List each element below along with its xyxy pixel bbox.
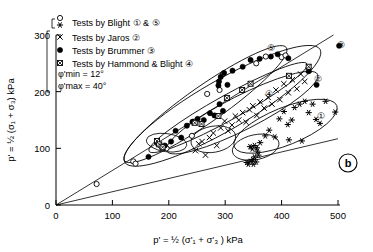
marker-circle-open <box>263 54 268 59</box>
marker-asterisk <box>266 128 272 133</box>
marker-asterisk <box>285 122 291 127</box>
marker-cross-x <box>211 130 216 135</box>
marker-cross-x <box>236 117 241 122</box>
marker-cross-x <box>229 122 234 127</box>
chart-panel: 0100200300400500 0100200300 p' = ½ (σ'₁ … <box>0 0 373 252</box>
marker-cross-x <box>294 86 299 91</box>
marker-asterisk <box>276 116 282 121</box>
marker-circle-filled <box>179 135 184 140</box>
legend-item-label: Tests by Brummer ③ <box>72 46 155 56</box>
group-label: ③ <box>337 40 345 50</box>
group-label: ④ <box>265 89 273 99</box>
x-tick-label: 0 <box>53 210 58 221</box>
group-label: ① <box>317 111 325 121</box>
marker-circle-open <box>254 61 259 66</box>
marker-asterisk <box>286 137 292 142</box>
marker-cross-x <box>273 87 278 92</box>
scatter-chart: 0100200300400500 0100200300 p' = ½ (σ'₁ … <box>0 0 373 252</box>
marker-asterisk <box>291 105 297 110</box>
marker-circle-open <box>205 91 210 96</box>
x-tick-label: 500 <box>330 210 346 221</box>
marker-circle-filled <box>146 154 151 159</box>
marker-asterisk <box>302 99 308 104</box>
marker-circle-filled <box>275 52 280 57</box>
marker-cross-x <box>196 141 201 146</box>
x-tick-label: 300 <box>217 210 233 221</box>
marker-circle-filled <box>257 56 262 61</box>
marker-cross-x <box>225 128 230 133</box>
legend-item-3[interactable]: Tests by Hammond & Blight ④ <box>58 59 194 69</box>
x-tick-label: 400 <box>274 210 290 221</box>
marker-asterisk <box>310 101 316 106</box>
marker-circle-open <box>57 15 62 20</box>
y-axis-ticks: 0100200300 <box>34 30 61 211</box>
marker-circle-filled <box>168 139 173 144</box>
marker-circle-open <box>94 181 99 186</box>
marker-circle-filled <box>220 108 225 113</box>
marker-cross-x <box>269 101 274 106</box>
legend-item-1[interactable]: Tests by Jaros ② <box>57 33 140 43</box>
marker-circle-filled <box>268 54 273 59</box>
x-tick-label: 100 <box>104 210 120 221</box>
group-label: ② <box>314 74 322 84</box>
group-label: ⑤ <box>267 43 275 53</box>
series-asterisk <box>244 99 339 167</box>
marker-asterisk <box>57 22 63 27</box>
panel-label: b <box>339 154 357 172</box>
x-axis-title: p' = ½ (σ'₁ + σ'₃ ) kPa <box>153 234 243 245</box>
marker-cross-x <box>302 79 307 84</box>
legend-item-2[interactable]: Tests by Brummer ③ <box>57 46 155 56</box>
legend-item-label: Tests by Blight ① & ⑤ <box>72 18 160 28</box>
y-tick-label: 100 <box>34 143 50 154</box>
marker-circle-filled <box>240 64 245 69</box>
marker-circle-open <box>133 161 138 166</box>
legend-item-0[interactable]: Tests by Blight ① & ⑤ <box>57 15 160 28</box>
marker-cross-x <box>222 118 227 123</box>
x-tick-label: 200 <box>161 210 177 221</box>
marker-circle-filled <box>173 128 178 133</box>
marker-circle-open <box>189 133 194 138</box>
marker-circle-filled <box>57 47 62 52</box>
phi-max-note: φ'max = 40° <box>58 81 107 91</box>
marker-circle-filled <box>184 123 189 128</box>
marker-cross-x <box>281 81 286 86</box>
y-tick-label: 300 <box>34 30 50 41</box>
marker-asterisk <box>289 117 295 122</box>
marker-circle-filled <box>230 68 235 73</box>
marker-circle-filled <box>225 82 230 87</box>
marker-cross-x <box>203 152 208 157</box>
marker-asterisk <box>257 140 263 145</box>
legend-bracket-blight <box>52 19 55 28</box>
marker-circle-filled <box>221 70 226 75</box>
y-tick-label: 0 <box>45 200 50 211</box>
x-axis-ticks: 0100200300400500 <box>53 200 346 221</box>
marker-asterisk <box>306 110 312 115</box>
marker-cross-x <box>199 139 204 144</box>
marker-circle-filled <box>248 57 253 62</box>
y-axis-title: p' = ½ (σ₁ + σ₃) kPa <box>5 78 16 162</box>
marker-circle-filled <box>286 56 291 61</box>
legend-item-label: Tests by Hammond & Blight ④ <box>72 59 193 69</box>
marker-circle-filled <box>217 102 222 107</box>
legend-item-label: Tests by Jaros ② <box>72 33 140 43</box>
marker-cross-x <box>214 143 219 148</box>
phi-min-note: φ'min = 12° <box>58 69 104 79</box>
panel-label-text: b <box>345 157 352 169</box>
